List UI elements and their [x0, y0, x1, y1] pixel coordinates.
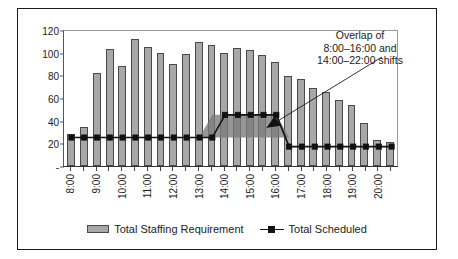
legend-item-total-staffing-requirement: Total Staffing Requirement: [87, 223, 243, 235]
total-scheduled-marker: [146, 135, 151, 140]
x-axis-tick-mark: [185, 166, 186, 171]
x-axis-tick-mark: [275, 166, 276, 171]
x-axis-tick-mark: [262, 166, 263, 171]
x-axis-tick: [231, 166, 244, 171]
x-axis-tick: [141, 166, 154, 171]
x-axis-tick-mark: [326, 166, 327, 171]
line-square-swatch-icon: [260, 225, 284, 234]
x-axis-labels: 8:009:0010:0011:0012:0013:0014:0015:0016…: [63, 172, 398, 218]
total-scheduled-marker: [235, 112, 240, 117]
x-axis-label-slot: [307, 172, 320, 218]
x-axis-tick: [295, 166, 308, 171]
x-axis-label-slot: 16:00: [269, 172, 282, 218]
annotation-arrow-icon: [267, 57, 382, 128]
y-axis-tick-label: 100: [42, 48, 59, 59]
y-axis-tick-label: 60: [48, 94, 59, 105]
y-axis-tick-label: 40: [48, 116, 59, 127]
x-axis-tick-label: 14:00: [219, 174, 230, 199]
x-axis-tick: [179, 166, 192, 171]
x-axis-tick: [167, 166, 180, 171]
x-axis-tick: [372, 166, 385, 171]
x-axis-tick-mark: [352, 166, 353, 171]
x-axis-label-slot: 12:00: [167, 172, 180, 218]
x-axis-tick-mark: [236, 166, 237, 171]
total-scheduled-marker: [338, 144, 343, 149]
total-scheduled-marker: [133, 135, 138, 140]
x-axis-tick-label: 11:00: [142, 174, 153, 198]
x-axis-tick-label: 16:00: [270, 174, 281, 199]
legend-item-total-scheduled: Total Scheduled: [260, 223, 367, 235]
x-axis-tick-label: 10:00: [116, 174, 127, 199]
y-axis-tick-label: 120: [42, 26, 59, 37]
x-axis-tick-mark: [70, 166, 71, 171]
x-axis-tick: [205, 166, 218, 171]
x-axis-tick-mark: [198, 166, 199, 171]
x-axis-tick-label: 19:00: [347, 174, 358, 199]
annotation-line-1: Overlap of: [292, 29, 428, 42]
x-axis-tick-label: 20:00: [372, 174, 383, 199]
total-scheduled-marker: [94, 135, 99, 140]
x-axis-tick-mark: [390, 166, 391, 171]
x-axis-tick: [64, 166, 77, 171]
bar-swatch-icon: [87, 225, 109, 233]
x-axis-tick-mark: [339, 166, 340, 171]
total-scheduled-marker: [299, 144, 304, 149]
total-scheduled-marker: [120, 135, 125, 140]
x-axis-tick-mark: [288, 166, 289, 171]
x-axis-label-slot: [256, 172, 269, 218]
annotation-line-3: 14:00–22:00 shifts: [292, 54, 428, 67]
x-axis-label-slot: 18:00: [320, 172, 333, 218]
x-axis-tick: [359, 166, 372, 171]
chart-figure: 12010080604020- 8:009:0010:0011:0012:001…: [17, 8, 437, 250]
x-axis-tick: [346, 166, 359, 171]
x-axis-label-slot: [77, 172, 90, 218]
x-axis-label-slot: 19:00: [346, 172, 359, 218]
x-axis-tick: [269, 166, 282, 171]
x-axis-label-slot: 8:00: [64, 172, 77, 218]
x-axis-label-slot: [333, 172, 346, 218]
x-axis-label-slot: 10:00: [115, 172, 128, 218]
x-axis-tick: [102, 166, 115, 171]
total-scheduled-marker: [171, 135, 176, 140]
x-axis-label-slot: [179, 172, 192, 218]
x-axis-tick-mark: [301, 166, 302, 171]
x-axis-tick: [307, 166, 320, 171]
x-axis-tick: [282, 166, 295, 171]
x-axis-tick: [384, 166, 397, 171]
x-axis-tick-label: 9:00: [91, 174, 102, 193]
x-axis-label-slot: [359, 172, 372, 218]
total-scheduled-marker: [107, 135, 112, 140]
x-axis-tick-label: 17:00: [296, 174, 307, 199]
x-axis-label-slot: 13:00: [192, 172, 205, 218]
total-scheduled-marker: [82, 135, 87, 140]
y-axis-tick-label: -: [56, 162, 59, 173]
x-axis-tick: [333, 166, 346, 171]
x-axis-tick: [243, 166, 256, 171]
x-axis-tick: [115, 166, 128, 171]
total-scheduled-marker: [248, 112, 253, 117]
x-axis-tick-label: 15:00: [244, 174, 255, 199]
x-axis-tick-mark: [249, 166, 250, 171]
total-scheduled-marker: [223, 112, 228, 117]
x-axis-label-slot: 17:00: [295, 172, 308, 218]
x-axis-tick-label: 13:00: [193, 174, 204, 199]
x-axis-tick: [192, 166, 205, 171]
x-axis-tick: [90, 166, 103, 171]
total-scheduled-marker: [184, 135, 189, 140]
total-scheduled-marker: [312, 144, 317, 149]
total-scheduled-marker: [351, 144, 356, 149]
x-axis-tick-mark: [108, 166, 109, 171]
x-axis-tick-mark: [377, 166, 378, 171]
x-axis-tick-mark: [365, 166, 366, 171]
x-axis-tick-mark: [160, 166, 161, 171]
x-axis-tick-mark: [147, 166, 148, 171]
x-axis-tick: [77, 166, 90, 171]
x-axis-tick: [320, 166, 333, 171]
chart-legend: Total Staffing Requirement Total Schedul…: [18, 223, 436, 235]
x-axis-label-slot: [102, 172, 115, 218]
overlap-annotation: Overlap of 8:00–16:00 and 14:00–22:00 sh…: [292, 29, 428, 67]
legend-label-total-staffing-requirement: Total Staffing Requirement: [114, 223, 243, 235]
x-axis-label-slot: 11:00: [141, 172, 154, 218]
x-axis-label-slot: 20:00: [372, 172, 385, 218]
x-axis-label-slot: [154, 172, 167, 218]
